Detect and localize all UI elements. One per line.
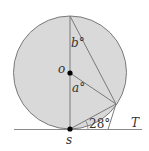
label-b: b° bbox=[71, 36, 85, 50]
tangent-point-s bbox=[67, 126, 72, 131]
label-T: T bbox=[131, 116, 140, 130]
label-28: 28° bbox=[89, 117, 110, 131]
center-point-o bbox=[67, 70, 72, 75]
label-s: s bbox=[66, 133, 72, 147]
label-a: a° bbox=[72, 81, 85, 95]
label-o: o bbox=[58, 62, 65, 76]
geometry-diagram: b° o a° 28° T s bbox=[0, 0, 149, 151]
